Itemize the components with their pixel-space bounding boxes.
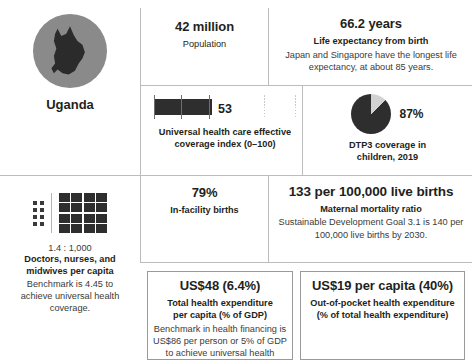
pie-slice-group xyxy=(351,94,391,134)
total-health-expenditure-note: Benchmark in health financing is US$86 p… xyxy=(149,323,291,362)
uhc-index-stat: 53 Universal health care effective cover… xyxy=(150,92,300,151)
country-health-profile-infographic: Uganda 42 million Population 66.2 years … xyxy=(0,0,472,362)
dot xyxy=(40,215,44,219)
ratio-people-grid-icon xyxy=(33,192,108,234)
square xyxy=(71,214,82,223)
dot xyxy=(40,201,44,205)
dot xyxy=(40,208,44,212)
life-expectancy-stat: 66.2 years Life expectancy from birth Ja… xyxy=(270,17,472,73)
maternal-mortality-note: Sustainable Development Goal 3.1 is 140 … xyxy=(271,216,471,240)
maternal-mortality-value: 133 per 100,000 live births xyxy=(289,184,454,200)
total-health-expenditure-card: US$48 (6.4%) Total health expenditure pe… xyxy=(147,271,293,360)
square xyxy=(84,214,95,223)
total-health-expenditure-value: US$48 (6.4%) xyxy=(180,279,260,294)
life-expectancy-label: Life expectancy from birth xyxy=(314,36,429,48)
total-health-expenditure-label-line1: Total health expenditure xyxy=(167,298,273,310)
dot xyxy=(33,208,37,212)
in-facility-births-label: In-facility births xyxy=(170,205,238,217)
dtp3-pie-chart: 87% xyxy=(351,94,423,134)
out-of-pocket-value: US$19 per capita (40%) xyxy=(312,279,453,294)
square xyxy=(71,193,82,202)
bar-tick-25 xyxy=(181,95,182,119)
workforce-note: Benchmark is 4.45 to achieve universal h… xyxy=(10,278,130,314)
square xyxy=(84,224,95,233)
dtp3-value: 87% xyxy=(399,107,423,121)
divider-vertical-lower-middle xyxy=(268,176,269,262)
bar-tick-50 xyxy=(209,95,210,119)
life-expectancy-note: Japan and Singapore have the longest lif… xyxy=(273,49,469,73)
square xyxy=(96,203,107,212)
bar-fill xyxy=(154,99,212,115)
bar-track: 53 xyxy=(154,99,296,115)
uhc-index-value: 53 xyxy=(218,102,232,116)
uhc-index-bar-chart: 53 xyxy=(154,92,296,122)
maternal-mortality-label: Maternal mortality ratio xyxy=(320,204,422,216)
square xyxy=(59,224,70,233)
dot xyxy=(33,215,37,219)
square xyxy=(84,193,95,202)
dot xyxy=(33,201,37,205)
uhc-index-label: Universal health care effective coverage… xyxy=(152,127,298,151)
dtp3-label: DTP3 coverage in children, 2019 xyxy=(332,140,444,164)
square-grid xyxy=(59,193,108,234)
bar-gridline-100 xyxy=(295,95,296,119)
life-expectancy-value: 66.2 years xyxy=(340,17,402,32)
population-stat: 42 million Population xyxy=(141,20,268,51)
workforce-value: 1.4 : 1,000 xyxy=(48,242,91,254)
health-workforce-stat: 1.4 : 1,000 Doctors, nurses, and midwive… xyxy=(0,192,140,314)
dtp3-stat: 87% DTP3 coverage in children, 2019 xyxy=(303,94,472,164)
dot xyxy=(33,222,37,226)
dot-grid xyxy=(33,201,44,226)
total-health-expenditure-label-line2: per capita (% of GDP) xyxy=(173,310,267,322)
bar-gridline-75 xyxy=(264,95,265,119)
in-facility-births-stat: 79% In-facility births xyxy=(141,186,268,217)
square xyxy=(59,203,70,212)
square xyxy=(96,224,107,233)
square xyxy=(96,214,107,223)
divider-horizontal-lower xyxy=(140,262,472,263)
square xyxy=(71,224,82,233)
square xyxy=(71,203,82,212)
square xyxy=(84,203,95,212)
uganda-map-icon xyxy=(33,14,107,88)
workforce-label: Doctors, nurses, and midwives per capita xyxy=(10,254,130,278)
maternal-mortality-stat: 133 per 100,000 live births Maternal mor… xyxy=(270,184,472,241)
divider-vertical-top-middle xyxy=(268,8,269,86)
out-of-pocket-card: US$19 per capita (40%) Out-of-pocket hea… xyxy=(300,271,465,360)
dot xyxy=(40,222,44,226)
square xyxy=(96,193,107,202)
country-name: Uganda xyxy=(46,97,94,112)
square xyxy=(59,214,70,223)
divider-horizontal-top xyxy=(140,85,472,86)
ratio-separator xyxy=(51,193,52,233)
country-block: Uganda xyxy=(0,14,140,112)
divider-horizontal-middle xyxy=(0,175,472,176)
population-label: Population xyxy=(183,39,226,51)
out-of-pocket-label: Out-of-pocket health expenditure (% of t… xyxy=(307,298,459,322)
population-value: 42 million xyxy=(175,20,234,35)
in-facility-births-value: 79% xyxy=(192,186,218,201)
square xyxy=(59,193,70,202)
bar-tick-0 xyxy=(154,95,155,119)
